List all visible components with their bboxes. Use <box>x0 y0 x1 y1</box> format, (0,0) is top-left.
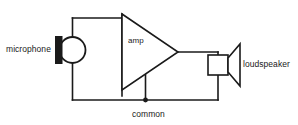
amp-triangle <box>122 14 178 90</box>
circuit-diagram: microphone amp loudspeaker common <box>0 0 298 125</box>
loudspeaker-label: loudspeaker <box>243 60 290 69</box>
microphone-diaphragm-bar <box>55 36 63 64</box>
microphone-symbol <box>55 36 86 64</box>
microphone-label: microphone <box>6 45 51 54</box>
amp-symbol <box>122 14 178 90</box>
amp-label: amp <box>128 37 144 45</box>
common-label: common <box>132 110 165 119</box>
loudspeaker-horn <box>228 44 240 86</box>
microphone-circle <box>60 37 86 63</box>
common-junction-dot <box>143 98 148 103</box>
loudspeaker-symbol <box>208 44 240 86</box>
loudspeaker-body <box>208 55 228 75</box>
